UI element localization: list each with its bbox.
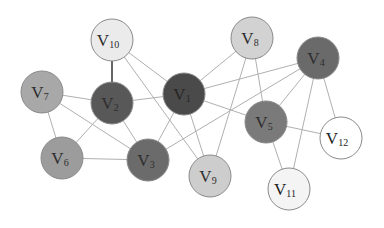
graph-diagram: V1V2V3V4V5V6V7V8V9V10V11V12 (0, 0, 384, 228)
node-v1: V1 (163, 73, 205, 115)
node-v5: V5 (245, 101, 287, 143)
node-v3: V3 (127, 139, 169, 181)
node-v6: V6 (41, 137, 83, 179)
node-v11: V11 (268, 168, 310, 210)
node-layer: V1V2V3V4V5V6V7V8V9V10V11V12 (21, 17, 362, 210)
node-v10: V10 (91, 19, 133, 61)
node-v7: V7 (21, 71, 63, 113)
node-v12: V12 (320, 117, 362, 159)
node-v4: V4 (297, 37, 339, 79)
node-v8: V8 (231, 17, 273, 59)
node-v9: V9 (189, 155, 231, 197)
node-v2: V2 (91, 82, 133, 124)
edge-v8-v9 (210, 38, 252, 176)
